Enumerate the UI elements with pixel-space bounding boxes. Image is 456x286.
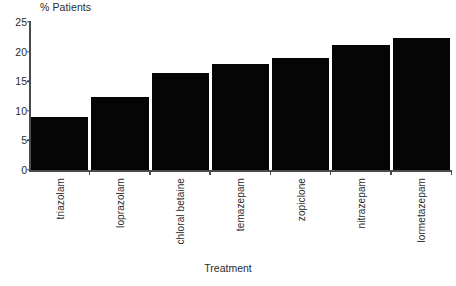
bar-slot [212, 22, 269, 170]
category-label: loprazolam [114, 178, 125, 228]
y-tick-label: 20 [1, 46, 27, 57]
category-label: triazolam [54, 178, 65, 219]
bar [152, 73, 209, 170]
category-slot: chloral betaine [152, 178, 209, 256]
y-tick-label: 10 [1, 106, 27, 117]
bar-slot [152, 22, 209, 170]
y-tick-label: 5 [1, 135, 27, 146]
y-tick-mark [27, 110, 30, 111]
category-slot: zopiclone [272, 178, 329, 256]
category-slot: loprazolam [91, 178, 148, 256]
bar-slot [393, 22, 450, 170]
y-tick-label: 0 [1, 165, 27, 176]
x-tick-mark [393, 170, 450, 175]
bar-slot [91, 22, 148, 170]
bar-slot [332, 22, 389, 170]
category-label: nitrazepam [356, 178, 367, 228]
y-axis-ticks: 0510152025 [0, 0, 27, 286]
y-tick-mark [27, 80, 30, 81]
bar-slot [272, 22, 329, 170]
y-tick-label: 15 [1, 76, 27, 87]
category-label: chloral betaine [175, 178, 186, 245]
x-axis-ticks [31, 170, 450, 175]
category-label: zopiclone [295, 178, 306, 221]
bar-slot [31, 22, 88, 170]
category-label: temazepam [235, 178, 246, 231]
category-slot: temazepam [212, 178, 269, 256]
category-slot: lormetazepam [393, 178, 450, 256]
x-axis-title: Treatment [0, 262, 456, 274]
chart-title: % Patients [40, 1, 91, 13]
x-tick-mark [152, 170, 209, 175]
bar [31, 117, 88, 170]
bar-chart: % Patients 0510152025 triazolamloprazola… [0, 0, 456, 286]
y-tick-label: 25 [1, 17, 27, 28]
bar [272, 58, 329, 170]
bar [393, 38, 450, 170]
category-slot: nitrazepam [332, 178, 389, 256]
y-tick-mark [27, 140, 30, 141]
x-tick-mark [332, 170, 389, 175]
y-tick-mark [27, 51, 30, 52]
x-tick-mark [212, 170, 269, 175]
category-slot: triazolam [31, 178, 88, 256]
bar [332, 45, 389, 170]
category-label: lormetazepam [416, 178, 427, 243]
x-axis-category-labels: triazolamloprazolamchloral betainetemaze… [31, 178, 450, 256]
bar [91, 97, 148, 170]
y-tick-mark [27, 169, 30, 170]
bar-series [31, 22, 450, 170]
x-tick-mark [272, 170, 329, 175]
y-tick-mark [27, 21, 30, 22]
x-tick-mark [91, 170, 148, 175]
x-tick-mark [31, 170, 88, 175]
bar [212, 64, 269, 170]
